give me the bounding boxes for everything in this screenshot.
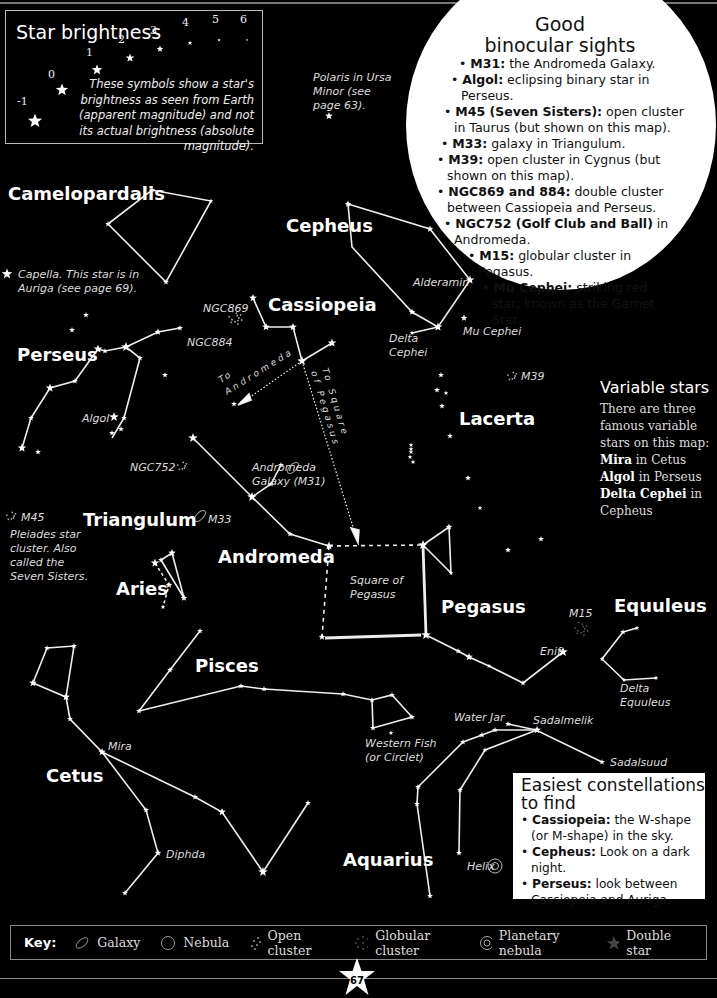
key-item-planetary-nebula: Planetary nebula — [479, 928, 587, 958]
water-jar-label: Water Jar — [454, 711, 506, 724]
star — [35, 449, 41, 454]
star — [305, 800, 311, 805]
magnitude-label: 3 — [150, 24, 157, 37]
list-item: • NGC869 and 884: double cluster between… — [437, 184, 687, 216]
open-cluster-icon — [249, 935, 260, 951]
helix-label: Helix — [467, 860, 495, 873]
key-item-galaxy: Galaxy — [74, 935, 140, 950]
square-of-pegasus-label: Square of — [350, 574, 405, 587]
star — [109, 412, 119, 421]
enif-label: Enif — [540, 645, 563, 658]
algol-label: Algol — [81, 412, 109, 425]
pleiades-label: cluster. Also — [10, 542, 77, 555]
list-item-term: Cassiopeia: — [532, 813, 611, 827]
polaris-label: page 63). — [312, 99, 366, 112]
variable-star-location: in Cetus — [632, 453, 686, 467]
constellation-label-cassiopeia: Cassiopeia — [268, 294, 377, 315]
m45-label: M45 — [21, 511, 45, 524]
constellation-line — [139, 686, 412, 728]
square-of-pegasus-line — [325, 635, 421, 638]
easiest-constellations-panel: Easiest constellations to find • Cassiop… — [513, 773, 705, 899]
star — [409, 443, 414, 448]
constellation-label-perseus: Perseus — [17, 344, 98, 365]
bullet-icon: • — [441, 136, 452, 151]
magnitude-label: 6 — [240, 13, 247, 26]
capella-label: Capella. This star is in — [18, 268, 139, 281]
list-item-term: M33: — [452, 136, 487, 151]
variable-star-location: in Perseus — [635, 470, 702, 484]
list-item-term: NGC752 (Golf Club and Ball) — [455, 216, 653, 231]
variable-star-item: Delta Cephei in — [600, 486, 715, 503]
bullet-icon: • — [444, 216, 455, 231]
star — [121, 415, 127, 420]
star — [162, 372, 168, 377]
constellation-line — [426, 635, 563, 683]
star — [69, 327, 75, 332]
star — [29, 679, 37, 686]
to-andromeda-label: Andromeda — [222, 346, 295, 397]
list-item-term: M45 (Seven Sisters): — [455, 104, 602, 119]
pleiades-label: called the — [10, 556, 64, 569]
bullet-icon: • — [521, 877, 532, 891]
ngc869-label: NGC869 — [203, 302, 248, 315]
magnitude-label: 5 — [212, 13, 219, 26]
square-of-pegasus-line — [423, 545, 426, 635]
square-of-pegasus-line — [329, 545, 423, 546]
list-item: • Cassiopeia: the W-shape (or M-shape) i… — [521, 812, 705, 844]
pleiades-label: Pleiades star — [10, 528, 82, 541]
variable-stars-intro: There are three famous variable stars on… — [600, 401, 715, 452]
list-item-term: Mu Cephei: — [493, 280, 572, 295]
star — [465, 653, 473, 660]
constellation-label-aries: Aries — [116, 578, 168, 599]
bullet-icon: • — [468, 248, 479, 263]
key-item-nebula: Nebula — [160, 935, 229, 951]
andromeda-galaxy-label: Galaxy (M31) — [252, 475, 326, 488]
list-item: • Algol: eclipsing binary star in Perseu… — [451, 72, 701, 104]
ngc884-label: NGC884 — [187, 336, 232, 349]
star — [447, 433, 453, 438]
planetary-nebula-icon — [479, 935, 492, 951]
star — [444, 391, 449, 396]
constellation-label-camelopardalis: Camelopardalis — [8, 183, 165, 204]
star — [370, 725, 376, 730]
mira-label: Mira — [108, 740, 132, 753]
key-item-double-star: Double star — [606, 928, 686, 958]
star — [83, 312, 89, 317]
polaris-label: Minor (see — [313, 85, 371, 98]
star — [319, 634, 326, 640]
star-brightness-description: These symbols show a star's brightness a… — [69, 77, 254, 155]
variable-star-name: Algol — [600, 470, 635, 484]
variable-star-name: Mira — [600, 453, 632, 467]
star-brightness-panel: Star brightness These symbols show a sta… — [5, 10, 263, 144]
m39-label: M39 — [521, 370, 545, 383]
variable-star-location: Cepheus — [600, 504, 653, 518]
constellation-label-pisces: Pisces — [195, 655, 259, 676]
bullet-icon: • — [521, 813, 532, 827]
list-item: • M45 (Seven Sisters): open cluster in T… — [444, 104, 684, 136]
star — [635, 626, 640, 631]
star — [478, 506, 483, 511]
constellation-label-lacerta: Lacerta — [459, 408, 535, 429]
list-item: • M39: open cluster in Cygnus (but shown… — [437, 152, 687, 184]
open-cluster-icon — [177, 462, 187, 471]
list-item-term: M39: — [448, 152, 483, 167]
variable-stars-panel: Variable stars There are three famous va… — [600, 378, 715, 520]
star — [505, 721, 511, 726]
list-item: • Perseus: look between Cassiopeia and A… — [521, 876, 705, 908]
star — [505, 547, 511, 552]
magnitude-label: 2 — [118, 33, 125, 46]
globular-cluster-icon — [354, 935, 369, 951]
variable-star-name: Delta Cephei — [600, 487, 687, 501]
delta-cephei-label: Delta — [389, 332, 419, 345]
nebula-icon — [160, 935, 176, 951]
list-item: • M31: the Andromeda Galaxy. — [459, 56, 709, 72]
diphda-label: Diphda — [166, 848, 205, 861]
star — [427, 893, 433, 898]
open-cluster-icon — [507, 372, 517, 381]
delta-equuleus-label: Equuleus — [620, 696, 671, 709]
constellation-label-cetus: Cetus — [46, 765, 104, 786]
list-item-term: Perseus: — [532, 877, 592, 891]
star-brightness-title: Star brightness — [16, 21, 161, 43]
star — [599, 759, 605, 764]
star — [177, 325, 183, 330]
